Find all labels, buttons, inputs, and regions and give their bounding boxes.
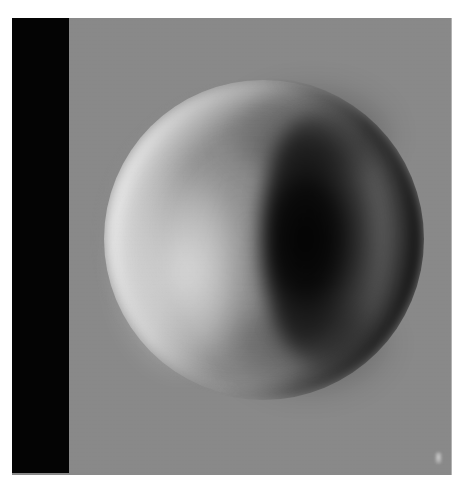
screenshot-viewport bbox=[0, 0, 464, 488]
plate-right-hairline bbox=[451, 18, 452, 475]
black-vertical-occluder-bar bbox=[12, 18, 69, 473]
image-frame bbox=[12, 18, 452, 475]
bright-corner-marker bbox=[435, 452, 442, 464]
dark-crescent-core bbox=[260, 113, 380, 365]
